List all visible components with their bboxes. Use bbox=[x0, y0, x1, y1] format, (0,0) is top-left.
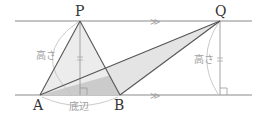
point-label-b: B bbox=[114, 97, 124, 113]
point-label-a: A bbox=[32, 97, 44, 113]
right-angle-mark-q bbox=[220, 88, 227, 95]
base-label: 底辺 bbox=[69, 100, 89, 112]
parallel-marker-bottom: ≫ bbox=[150, 90, 160, 101]
equal-area-triangles-diagram: ≫ ≫ P Q A B 高さ 高さ 底辺 bbox=[0, 0, 268, 119]
point-label-p: P bbox=[75, 3, 84, 19]
point-label-q: Q bbox=[215, 3, 226, 19]
parallel-marker-top: ≫ bbox=[150, 16, 160, 27]
height-label-right: 高さ bbox=[194, 53, 214, 65]
height-label-left: 高さ bbox=[36, 49, 56, 61]
